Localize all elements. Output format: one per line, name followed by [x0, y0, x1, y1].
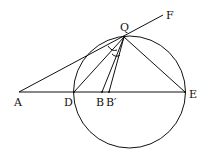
line-QE — [124, 37, 185, 92]
label-A: A — [14, 97, 22, 108]
geometry-diagram: A D B B′ E Q F — [0, 0, 207, 159]
line-QB — [102, 37, 124, 92]
label-Q: Q — [120, 22, 129, 33]
label-B: B — [96, 97, 104, 108]
diagram-canvas — [0, 0, 207, 159]
label-E: E — [189, 89, 197, 100]
line-AF — [19, 15, 163, 92]
label-B-prime: B′ — [106, 97, 117, 108]
label-D: D — [64, 97, 73, 108]
label-F: F — [166, 10, 174, 21]
